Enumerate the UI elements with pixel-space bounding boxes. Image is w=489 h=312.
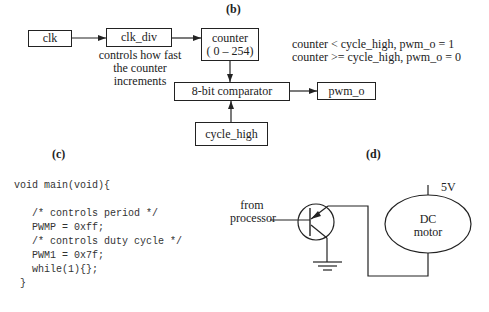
comparator-block-label: 8-bit comparator [192, 85, 272, 98]
cycle-high-block: cycle_high [195, 122, 268, 146]
dc-motor-label: DC motor [398, 213, 458, 239]
code-line: PWM1 = 0x7f; [14, 249, 182, 263]
comparator-block: 8-bit comparator [174, 82, 290, 101]
panel-b-label: (b) [226, 3, 241, 16]
counter-block: counter ( 0 – 254) [201, 28, 259, 61]
code-line: PWMP = 0xff; [14, 221, 182, 235]
counter-block-range: ( 0 – 254) [207, 45, 254, 58]
pwm-diagram-figure: (b) clk clk_div controls how fast the co… [0, 0, 489, 312]
pwm-o-block: pwm_o [317, 82, 376, 100]
supply-label: 5V [441, 181, 456, 194]
code-line [14, 193, 182, 207]
counter-block-title: counter [212, 32, 248, 45]
code-line: /* controls duty cycle */ [14, 235, 182, 249]
code-line: while(1){}; [14, 263, 182, 277]
code-line: void main(void){ [14, 179, 182, 193]
clk-block-label: clk [43, 32, 58, 45]
clk-block: clk [28, 30, 72, 47]
pwm-o-block-label: pwm_o [329, 85, 365, 98]
transistor-icon [298, 204, 334, 240]
code-line: /* controls period */ [14, 207, 182, 221]
panel-d-label: (d) [366, 148, 381, 161]
ground-icon [313, 262, 342, 270]
code-block: void main(void){ /* controls period */ P… [14, 179, 182, 291]
cycle-high-block-label: cycle_high [205, 128, 258, 141]
clk-div-block: clk_div [106, 28, 172, 47]
pwm-rules: counter < cycle_high, pwm_o = 1 counter … [292, 38, 461, 64]
from-processor-label: from processor [230, 199, 274, 225]
code-line: } [14, 277, 182, 291]
clk-div-block-label: clk_div [121, 31, 157, 44]
panel-c-label: (c) [52, 148, 65, 161]
